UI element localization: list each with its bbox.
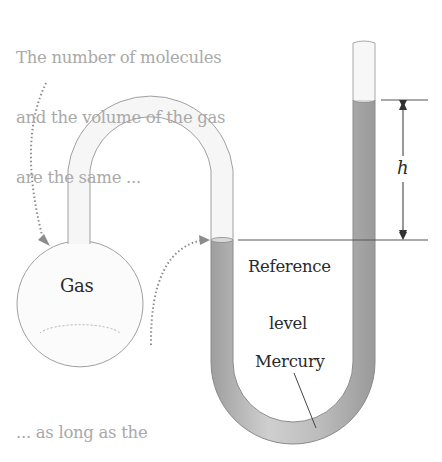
reference-level-label: Reference level — [248, 219, 328, 352]
caption-bottom-line-1: ... as long as the — [16, 423, 194, 443]
caption-top-line-1: The number of molecules — [16, 48, 225, 68]
mercury-label: Mercury — [255, 352, 325, 371]
height-label: h — [397, 158, 408, 177]
gas-label: Gas — [60, 276, 93, 295]
caption-top-line-2: and the volume of the gas — [16, 108, 225, 128]
gas-bulb — [17, 242, 143, 367]
reference-label-line-1: Reference — [248, 257, 328, 276]
caption-top: The number of molecules and the volume o… — [16, 8, 225, 208]
mercury-leader — [294, 373, 316, 428]
open-tube — [353, 41, 375, 100]
reference-label-line-2: level — [248, 314, 328, 333]
caption-bottom: ... as long as the mercury is kept at th… — [16, 383, 194, 462]
dotted-arrow-bottom — [151, 240, 203, 345]
caption-top-line-3: are the same ... — [16, 168, 225, 188]
